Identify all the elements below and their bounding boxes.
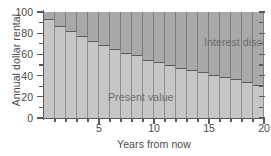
y-tick-minor-right — [259, 86, 263, 87]
bar-segment-present-value — [176, 68, 187, 118]
bar-segment-interest-discount — [154, 12, 165, 62]
y-tick-major-right — [259, 96, 265, 97]
x-tick-minor — [76, 118, 77, 122]
x-tick-minor — [131, 118, 132, 122]
y-tick-label: 40 — [21, 70, 33, 82]
bar-segment-interest-discount — [110, 12, 121, 49]
annotation-interest-discount: Interest discount — [204, 36, 264, 48]
y-tick-major-right — [259, 11, 265, 12]
bar-segment-present-value — [121, 53, 132, 118]
bar-segment-present-value — [198, 72, 209, 118]
bar-segment-present-value — [44, 19, 55, 118]
bar-segment-present-value — [220, 77, 231, 118]
y-tick-minor — [39, 86, 43, 87]
bar-segment-present-value — [209, 75, 220, 118]
x-tick-label: 10 — [148, 122, 160, 134]
bar-segment-present-value — [154, 62, 165, 118]
y-tick-major — [37, 54, 43, 55]
bar-segment-present-value — [187, 70, 198, 118]
x-tick-minor — [219, 118, 220, 122]
x-tick-minor — [252, 118, 253, 122]
y-tick-major-right — [259, 33, 265, 34]
y-tick-minor-right — [259, 107, 263, 108]
x-tick-minor — [164, 118, 165, 122]
y-tick-major-right — [259, 75, 265, 76]
stacked-bar — [55, 12, 66, 118]
x-tick-minor — [175, 118, 176, 122]
bar-segment-present-value — [143, 60, 154, 118]
y-tick-label: 100 — [15, 6, 33, 18]
stacked-bar — [77, 12, 88, 118]
chart-figure: Annual dollar rental Interest discount P… — [0, 0, 271, 156]
y-tick-minor — [39, 64, 43, 65]
y-tick-minor-right — [259, 64, 263, 65]
y-tick-label: 80 — [21, 27, 33, 39]
bar-segment-interest-discount — [55, 12, 66, 26]
stacked-bar — [198, 12, 209, 118]
bar-segment-interest-discount — [187, 12, 198, 70]
annotation-present-value: Present value — [108, 91, 174, 103]
x-tick-minor — [109, 118, 110, 122]
stacked-bar — [88, 12, 99, 118]
stacked-bar — [44, 12, 55, 118]
bar-segment-present-value — [253, 85, 264, 118]
x-tick-minor — [120, 118, 121, 122]
x-tick-minor — [65, 118, 66, 122]
y-tick-major — [37, 75, 43, 76]
y-tick-major — [37, 11, 43, 12]
bar-segment-present-value — [132, 55, 143, 118]
x-tick-label: 15 — [203, 122, 215, 134]
x-tick-minor — [197, 118, 198, 122]
y-tick-major — [37, 96, 43, 97]
bar-segment-interest-discount — [132, 12, 143, 55]
x-tick-minor — [186, 118, 187, 122]
bar-segment-present-value — [99, 45, 110, 118]
bar-segment-interest-discount — [88, 12, 99, 41]
x-axis-title: Years from now — [44, 138, 264, 150]
y-tick-label: 0 — [27, 112, 33, 124]
x-tick-label: 5 — [96, 122, 102, 134]
bar-segment-interest-discount — [99, 12, 110, 45]
y-tick-major — [37, 117, 43, 118]
bar-segment-present-value — [77, 36, 88, 118]
stacked-bar — [209, 12, 220, 118]
y-axis-line — [43, 10, 44, 120]
bar-segment-interest-discount — [77, 12, 88, 36]
x-tick-minor — [230, 118, 231, 122]
stacked-bar — [242, 12, 253, 118]
y-tick-minor — [39, 22, 43, 23]
stacked-bar — [231, 12, 242, 118]
stacked-bar — [187, 12, 198, 118]
bar-segment-interest-discount — [44, 12, 55, 19]
x-tick-label: 20 — [258, 122, 270, 134]
bar-segment-interest-discount — [121, 12, 132, 53]
y-tick-major — [37, 33, 43, 34]
y-tick-label: 60 — [21, 48, 33, 60]
bar-segment-present-value — [55, 26, 66, 118]
bar-segment-interest-discount — [176, 12, 187, 68]
stacked-bar — [66, 12, 77, 118]
bar-segment-interest-discount — [66, 12, 77, 31]
y-tick-minor — [39, 107, 43, 108]
bar-segment-interest-discount — [143, 12, 154, 60]
bar-segment-present-value — [110, 49, 121, 118]
y-axis-title: Annual dollar rental — [10, 0, 22, 120]
y-tick-minor — [39, 43, 43, 44]
y-tick-minor-right — [259, 22, 263, 23]
bar-segment-present-value — [66, 31, 77, 118]
y-tick-minor-right — [259, 43, 263, 44]
x-tick-minor — [142, 118, 143, 122]
bar-segment-present-value — [231, 79, 242, 118]
y-tick-major-right — [259, 54, 265, 55]
bar-segment-present-value — [242, 82, 253, 118]
bar-segment-interest-discount — [165, 12, 176, 65]
x-tick-minor — [241, 118, 242, 122]
plot-area: Interest discount Present value — [44, 12, 264, 118]
y-tick-label: 20 — [21, 91, 33, 103]
x-tick-minor — [54, 118, 55, 122]
stacked-bar — [176, 12, 187, 118]
bar-segment-present-value — [88, 41, 99, 118]
stacked-bar — [220, 12, 231, 118]
x-tick-minor — [87, 118, 88, 122]
